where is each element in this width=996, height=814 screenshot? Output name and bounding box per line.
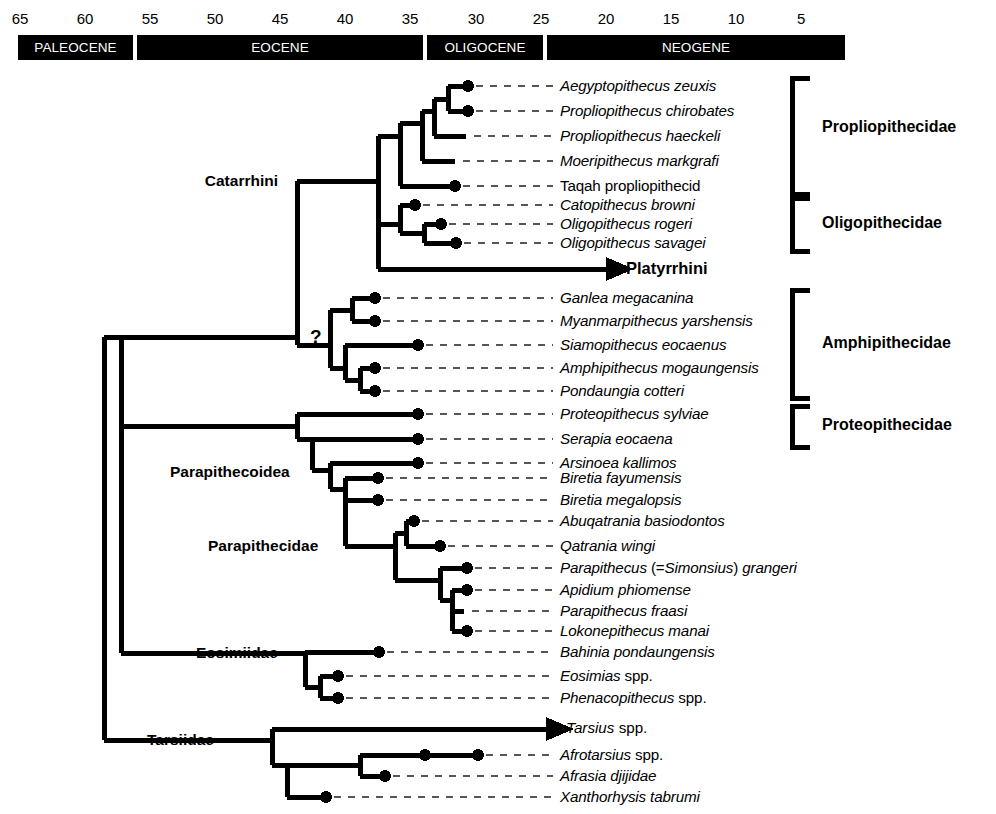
tip-dot-aegyptopithecus bbox=[462, 80, 474, 92]
taxon-label-biretia-fayumensis: Biretia fayumensis bbox=[560, 470, 681, 485]
tip-dot-propliopithecus-chirobates bbox=[462, 105, 474, 117]
bracket-propliopithecidae bbox=[792, 78, 810, 194]
tip-dot-ganlea-megacanina bbox=[369, 292, 381, 304]
taxon-label-apidium-phiomense: Apidium phiomense bbox=[560, 582, 691, 597]
tip-dot-lokonepithecus-manai bbox=[461, 625, 473, 637]
clade-label-parapithecidae: Parapithecidae bbox=[208, 538, 318, 554]
taxon-label-oligopithecus-savagei: Oligopithecus savagei bbox=[560, 235, 705, 250]
clade-label-catarrhini: Catarrhini bbox=[0, 173, 278, 189]
taxon-label-moeripithecus-markgrafi: Moeripithecus markgrafi bbox=[560, 153, 719, 168]
tip-dot-biretia-megalopsis bbox=[372, 494, 384, 506]
tip-dot-arsinoea-kallimos bbox=[412, 457, 424, 469]
tip-dot-eosimias-spp bbox=[332, 670, 344, 682]
taxon-label-myanmarpithecus-yarshensis: Myanmarpithecus yarshensis bbox=[560, 313, 753, 328]
taxon-label-arsinoea-kallimos: Arsinoea kallimos bbox=[560, 455, 676, 470]
tip-dot-amphipithecus-mogaungensis bbox=[369, 362, 381, 374]
taxon-label-propliopithecus-chirobates: Propliopithecus chirobates bbox=[560, 103, 734, 118]
tip-dot-oligopithecus-savagei bbox=[450, 237, 462, 249]
tip-dot-proteopithecus-sylviae bbox=[412, 408, 424, 420]
taxon-label-qatrania-wingi: Qatrania wingi bbox=[560, 538, 655, 553]
taxon-label-propliopithecus-haeckeli: Propliopithecus haeckeli bbox=[560, 128, 720, 143]
taxon-label-lokonepithecus-manai: Lokonepithecus manai bbox=[560, 623, 709, 638]
family-label-amphipithecidae: Amphipithecidae bbox=[822, 335, 951, 351]
taxon-label-parapithecus-grangeri: Parapithecus (=Simonsius) grangeri bbox=[560, 560, 797, 575]
tip-dot-biretia-fayumensis bbox=[372, 472, 384, 484]
clade-label-parapithecoidea: Parapithecoidea bbox=[170, 464, 290, 480]
family-label-propliopithecidae: Propliopithecidae bbox=[822, 119, 956, 135]
clade-label-eosimiidae: Eosimiidae bbox=[196, 645, 278, 661]
taxon-label-catopithecus-browni: Catopithecus browni bbox=[560, 197, 695, 212]
tip-dot-afrasia-djijidae bbox=[379, 770, 391, 782]
tip-dot-catopithecus-browni bbox=[409, 199, 421, 211]
tip-dot-abuqatrania-basiodontos bbox=[408, 515, 420, 527]
taxon-label-afrotarsius-spp: Afrotarsius spp. bbox=[560, 747, 663, 762]
clade-label-tarsiidae: Tarsiidae bbox=[147, 732, 214, 748]
tip-dot-bahinia-pondaungensis bbox=[373, 646, 385, 658]
tip-dot-myanmarpithecus-yarshensis bbox=[369, 315, 381, 327]
taxon-label-taqah-propliopithecid: Taqah propliopithecid bbox=[560, 178, 700, 193]
taxon-label-proteopithecus-sylviae: Proteopithecus sylviae bbox=[560, 406, 709, 421]
taxon-label-biretia-megalopsis: Biretia megalopsis bbox=[560, 492, 681, 507]
figure-canvas: 6560555045403530252015105 PALEOCENEEOCEN… bbox=[0, 0, 996, 814]
family-brackets bbox=[792, 78, 810, 447]
arrow-taxon-platyrrhini: Platyrrhini bbox=[626, 260, 708, 277]
taxon-label-aegyptopithecus: Aegyptopithecus zeuxis bbox=[560, 78, 716, 93]
tip-dot-oligopithecus-rogeri bbox=[435, 218, 447, 230]
internal-node-dot-afrotarsius bbox=[419, 749, 431, 761]
family-label-oligopithecidae: Oligopithecidae bbox=[822, 215, 942, 231]
tip-dot-pondaungia-cotteri bbox=[369, 385, 381, 397]
tip-dot-apidium-phiomense bbox=[461, 584, 473, 596]
taxon-label-serapia-eocaena: Serapia eocaena bbox=[560, 431, 673, 446]
family-label-proteopithecidae: Proteopithecidae bbox=[822, 417, 952, 433]
tip-dot-phenacopithecus-spp bbox=[332, 692, 344, 704]
taxon-label-xanthorhysis-tabrumi: Xanthorhysis tabrumi bbox=[560, 789, 700, 804]
taxon-label-afrasia-djijidae: Afrasia djijidae bbox=[560, 768, 656, 783]
taxon-label-phenacopithecus-spp: Phenacopithecus spp. bbox=[560, 690, 706, 705]
tip-dot-afrotarsius-spp bbox=[472, 749, 484, 761]
taxon-label-oligopithecus-rogeri: Oligopithecus rogeri bbox=[560, 216, 692, 231]
taxon-label-abuqatrania-basiodontos: Abuqatrania basiodontos bbox=[560, 513, 725, 528]
bracket-proteopithecidae bbox=[792, 406, 810, 447]
taxon-label-siamopithecus-eocaenus: Siamopithecus eocaenus bbox=[560, 337, 726, 352]
tip-dot-parapithecus-grangeri bbox=[461, 562, 473, 574]
tip-dot-siamopithecus-eocaenus bbox=[412, 339, 424, 351]
taxon-label-bahinia-pondaungensis: Bahinia pondaungensis bbox=[560, 644, 715, 659]
taxon-label-pondaungia-cotteri: Pondaungia cotteri bbox=[560, 383, 684, 398]
bracket-oligopithecidae bbox=[792, 198, 810, 251]
taxon-label-ganlea-megacanina: Ganlea megacanina bbox=[560, 290, 693, 305]
internal-node-dots bbox=[419, 749, 431, 761]
arrow-taxon-tarsius-spp: Tarsius spp. bbox=[566, 720, 647, 735]
bracket-amphipithecidae bbox=[792, 290, 810, 398]
uncertainty-question-mark: ? bbox=[310, 327, 322, 346]
tip-dot-taqah-propliopithecid bbox=[449, 180, 461, 192]
tip-dot-serapia-eocaena bbox=[412, 433, 424, 445]
taxon-label-eosimias-spp: Eosimias spp. bbox=[560, 668, 653, 683]
taxon-label-parapithecus-fraasi: Parapithecus fraasi bbox=[560, 603, 687, 618]
taxon-label-amphipithecus-mogaungensis: Amphipithecus mogaungensis bbox=[560, 360, 759, 375]
tip-dot-xanthorhysis-tabrumi bbox=[320, 791, 332, 803]
tip-dot-qatrania-wingi bbox=[434, 540, 446, 552]
